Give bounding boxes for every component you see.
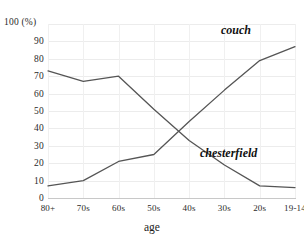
x-axis-line — [48, 198, 296, 199]
gridline-vertical — [295, 24, 296, 198]
series-label-couch: couch — [221, 23, 251, 38]
y-axis-tick-label: 60 — [34, 89, 44, 99]
x-axis-tick-label: 20s — [253, 203, 266, 213]
series-layer — [48, 24, 295, 198]
x-axis-tick-label: 19-14 — [284, 203, 304, 213]
y-axis-tick-label: 10 — [34, 176, 44, 186]
x-axis-tick-label: 30s — [218, 203, 231, 213]
x-axis-tick-label: 70s — [77, 203, 90, 213]
y-axis-tick-label: 90 — [34, 36, 44, 46]
x-axis-tick-label: 60s — [112, 203, 125, 213]
x-axis-tick-labels: 80+70s60s50s40s30s20s19-14 — [48, 201, 295, 219]
y-axis-tick-label: 50 — [34, 106, 44, 116]
series-label-chesterfield: chesterfield — [200, 146, 257, 161]
y-axis-tick-label: 30 — [34, 141, 44, 151]
y-axis-tick-label: 20 — [34, 158, 44, 168]
y-axis-tick-label: 0 — [39, 193, 44, 203]
x-axis-title: age — [0, 221, 304, 233]
x-axis-tick-label: 40s — [183, 203, 196, 213]
series-line-chesterfield — [48, 71, 295, 188]
x-axis-tick-label: 80+ — [41, 203, 56, 213]
y-axis-tick-label: 70 — [34, 71, 44, 81]
plot-area — [48, 24, 295, 198]
y-axis-tick-label: 40 — [34, 123, 44, 133]
y-axis-tick-label: 80 — [34, 54, 44, 64]
y-axis-tick-labels: 0102030405060708090 — [0, 24, 44, 198]
line-chart: 100 (%) 0102030405060708090 80+70s60s50s… — [0, 0, 304, 244]
x-axis-tick-label: 50s — [147, 203, 160, 213]
series-line-couch — [48, 47, 295, 186]
